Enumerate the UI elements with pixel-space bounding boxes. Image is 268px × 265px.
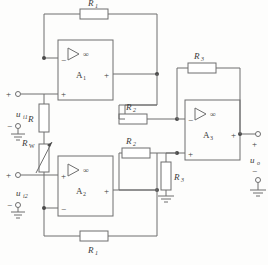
resistor-rw-label: R [21, 138, 28, 148]
opamp-a2-input-bottom-sign: − [61, 204, 66, 214]
resistor-r2-top-index: 2 [133, 107, 136, 113]
signal-ui1-label: u [16, 109, 21, 119]
opamp-a2-infinity-icon: ∞ [83, 166, 89, 175]
terminal-ui2-plus-sign: + [6, 170, 11, 180]
resistor-r3-feedback-index: 3 [200, 56, 204, 62]
opamp-a1-index: 1 [83, 75, 86, 81]
opamp-a1-output-sign: + [104, 70, 109, 80]
terminal-ui2-minus-sign: − [7, 200, 12, 210]
resistor-r1-bottom-label: R [87, 245, 94, 255]
opamp-a3-input-top-sign: − [188, 115, 193, 125]
node-a2-inverting [42, 206, 46, 210]
resistor-r2-bottom-body [122, 148, 150, 158]
resistor-r1-top-index: 1 [95, 3, 98, 9]
opamp-a1-infinity-icon: ∞ [83, 50, 89, 59]
resistor-r1-bottom-index: 1 [95, 250, 98, 256]
terminal-uo-plus[interactable] [256, 132, 261, 137]
opamp-a3-triangle-icon [195, 108, 206, 120]
signal-uo-label: u [250, 155, 255, 165]
terminal-ui1-plus-sign: + [6, 89, 11, 99]
opamp-a2-output-sign: + [104, 186, 109, 196]
signal-uo-index: o [257, 160, 260, 166]
terminal-ui1-minus-sign: − [7, 121, 12, 131]
signal-ui2-index: i2 [23, 193, 28, 199]
opamp-a3-output-sign: + [231, 130, 236, 140]
schematic-canvas: ∞ A 1 − + + R 1 + u i1 − R R W ∞ A 2 + −… [0, 0, 268, 265]
opamp-a1-input-bottom-sign: + [61, 89, 66, 99]
terminal-ui2-minus[interactable] [16, 203, 21, 208]
node-a1-inverting [42, 56, 46, 60]
resistor-r-label: R [27, 114, 34, 124]
resistor-r-body [39, 104, 49, 132]
opamp-a2-input-top-sign: + [61, 171, 66, 181]
wire-a2out-around-to-r2bot [119, 153, 157, 190]
resistor-r1-top-label: R [87, 0, 94, 8]
signal-ui2-label: u [16, 188, 21, 198]
terminal-ui1-minus[interactable] [16, 124, 21, 129]
resistor-r1-top-body [80, 9, 108, 19]
opamp-a3-name: A [203, 130, 210, 140]
resistor-r2-top-label: R [125, 102, 132, 112]
opamp-a3-index: 3 [210, 135, 213, 141]
terminal-ui1-plus[interactable] [16, 92, 21, 97]
terminal-ui2-plus[interactable] [16, 173, 21, 178]
resistor-r3-feedback-body [188, 63, 216, 73]
resistor-r3-ground-label: R [173, 172, 180, 182]
opamp-a1-name: A [76, 70, 83, 80]
resistor-r2-bottom-label: R [125, 136, 132, 146]
opamp-a2-index: 2 [83, 191, 86, 197]
wire-a1out-to-r2top [125, 74, 157, 105]
terminal-uo-minus-sign: − [252, 166, 257, 176]
opamp-a1-input-top-sign: − [61, 55, 66, 65]
terminal-uo-plus-sign: + [252, 139, 257, 149]
signal-ui1-index: i1 [23, 114, 28, 120]
circuit-diagram: ∞ A 1 − + + R 1 + u i1 − R R W ∞ A 2 + −… [0, 0, 268, 265]
opamp-a2-triangle-icon [68, 164, 79, 176]
opamp-a3-infinity-icon: ∞ [210, 110, 216, 119]
opamp-a3-input-bottom-sign: + [188, 149, 193, 159]
opamp-a1-triangle-icon [68, 48, 79, 60]
terminal-uo-minus[interactable] [256, 178, 261, 183]
resistor-r3-feedback-label: R [193, 51, 200, 61]
resistor-r2-bottom-index: 2 [133, 141, 136, 147]
resistor-r1-bottom-body [80, 231, 108, 241]
opamp-a2-name: A [76, 186, 83, 196]
resistor-r3-ground-body [161, 162, 171, 190]
resistor-rw-index: W [29, 143, 35, 149]
resistor-r3-ground-index: 3 [180, 177, 184, 183]
